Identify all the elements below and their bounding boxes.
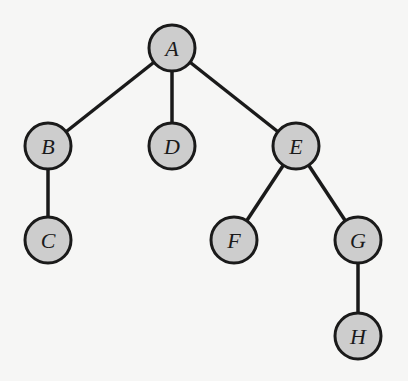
node-label-c: C — [41, 228, 56, 253]
edges — [48, 48, 358, 336]
node-b: B — [25, 123, 71, 169]
node-g: G — [335, 217, 381, 263]
node-h: H — [335, 313, 381, 359]
node-label-g: G — [350, 228, 366, 253]
node-c: C — [25, 217, 71, 263]
node-d: D — [149, 123, 195, 169]
node-e: E — [273, 123, 319, 169]
node-label-e: E — [288, 134, 303, 159]
tree-svg: A B D E C F G — [0, 0, 408, 381]
node-label-d: D — [163, 134, 180, 159]
node-label-b: B — [41, 134, 54, 159]
node-f: F — [211, 217, 257, 263]
node-label-f: F — [226, 228, 241, 253]
node-label-h: H — [349, 324, 367, 349]
tree-diagram: A B D E C F G — [0, 0, 408, 381]
node-a: A — [149, 25, 195, 71]
node-label-a: A — [163, 36, 179, 61]
